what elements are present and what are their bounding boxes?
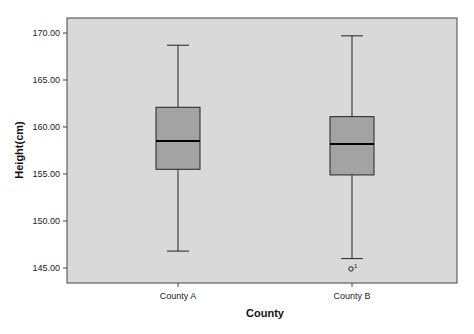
iqr-box: [156, 107, 200, 169]
y-axis-title: Height(cm): [13, 121, 25, 179]
y-tick-label: 155.00: [32, 169, 60, 179]
y-axis: 145.00150.00155.00160.00165.00170.00: [32, 28, 67, 273]
x-tick-label: County A: [160, 291, 197, 301]
y-tick-label: 145.00: [32, 263, 60, 273]
y-tick-label: 165.00: [32, 75, 60, 85]
y-tick-label: 170.00: [32, 28, 60, 38]
x-tick-label: County B: [333, 291, 370, 301]
x-axis: County ACounty B: [160, 283, 371, 301]
y-tick-label: 150.00: [32, 216, 60, 226]
x-axis-title: County: [246, 307, 285, 319]
plot-area: [67, 18, 457, 283]
y-tick-label: 160.00: [32, 122, 60, 132]
iqr-box: [330, 117, 374, 175]
boxplot-chart: 145.00150.00155.00160.00165.00170.00 Cou…: [0, 0, 474, 334]
